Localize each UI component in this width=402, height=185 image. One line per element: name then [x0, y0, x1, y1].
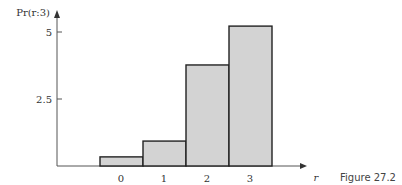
- bar-1: [143, 141, 186, 166]
- x-tick-label-3: 3: [247, 173, 253, 184]
- x-axis-arrow-icon: [300, 163, 307, 169]
- bars-group: [100, 26, 272, 166]
- figure-caption: Figure 27.2: [340, 172, 396, 183]
- x-tick-label-0: 0: [118, 173, 124, 184]
- x-axis-label: r: [314, 172, 320, 183]
- bar-2: [186, 65, 229, 166]
- y-axis-arrow-icon: [54, 10, 60, 18]
- y-tick-label-2.5: 2.5: [36, 94, 52, 105]
- bar-3: [229, 26, 272, 166]
- y-tick-label-5: 5: [46, 27, 52, 38]
- x-tick-label-2: 2: [204, 173, 210, 184]
- x-tick-label-1: 1: [161, 173, 167, 184]
- y-axis-label: Pr(r:3): [16, 7, 50, 18]
- bar-chart: 5 2.5 Pr(r:3) 0 1 2 3 r Figure 27.2: [0, 0, 402, 185]
- bar-0: [100, 157, 143, 166]
